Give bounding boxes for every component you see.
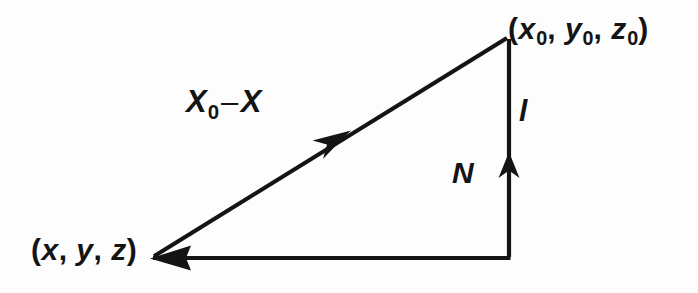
point-zero-z-subscript: 0 <box>627 27 639 49</box>
length-label: l <box>519 96 528 126</box>
point-zero-open-paren: ( <box>508 12 519 45</box>
vector-x-symbol: X <box>241 84 262 119</box>
point-comma-1: , <box>59 233 77 266</box>
vector-x0-symbol: X <box>186 84 207 119</box>
point-zero-close-paren: ) <box>638 12 649 45</box>
point-label: (x, y, z) <box>31 235 137 265</box>
point-zero-z-symbol: z <box>611 12 627 45</box>
point-z-symbol: z <box>111 233 127 266</box>
point-zero-x-symbol: x <box>519 12 536 45</box>
normal-label: N <box>452 158 474 188</box>
left-vertex-arrowhead-icon <box>150 246 191 271</box>
point-zero-y-subscript: 0 <box>582 27 594 49</box>
point-y-symbol: y <box>76 233 93 266</box>
vector-label: X0–X <box>186 86 262 122</box>
point-close-paren: ) <box>127 233 138 266</box>
vector-x0-subscript: 0 <box>207 100 219 123</box>
point-open-paren: ( <box>31 233 42 266</box>
point-zero-label: (x0, y0, z0) <box>508 14 649 49</box>
vector-minus-operator: – <box>219 84 241 119</box>
point-comma-2: , <box>94 233 112 266</box>
point-zero-comma-1: , <box>547 12 565 45</box>
figure-canvas: (x0, y0, z0) (x, y, z) X0–X l N <box>0 0 698 293</box>
point-zero-comma-2: , <box>594 12 612 45</box>
point-x-symbol: x <box>42 233 59 266</box>
point-zero-x-subscript: 0 <box>536 27 548 49</box>
point-zero-y-symbol: y <box>565 12 582 45</box>
